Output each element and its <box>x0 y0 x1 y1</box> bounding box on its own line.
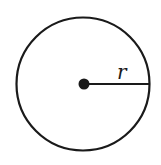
center-point <box>79 79 90 90</box>
circle-diagram: r <box>0 0 161 165</box>
radius-label: r <box>117 60 128 84</box>
